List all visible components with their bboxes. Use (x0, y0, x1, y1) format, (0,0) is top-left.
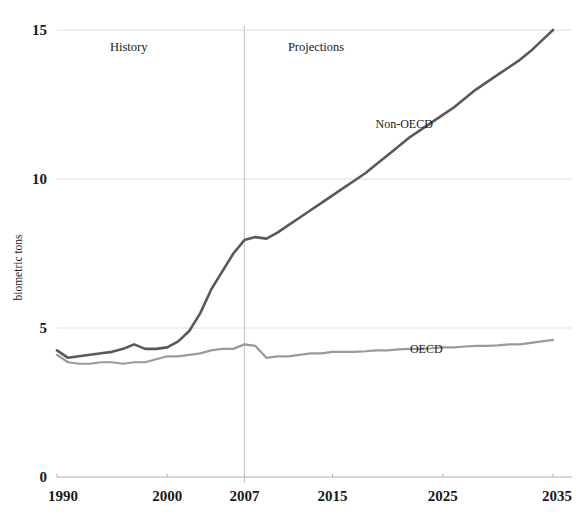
y-tick-label-5: 5 (40, 320, 48, 336)
series-line-non-oecd (57, 30, 553, 358)
series-label-oecd: OECD (410, 342, 443, 356)
y-axis-title: biometric tons (12, 234, 24, 301)
x-tick-label-2015: 2015 (318, 488, 348, 504)
x-tick-label-2007: 2007 (229, 488, 260, 504)
y-tick-label-0: 0 (40, 469, 48, 485)
chart-canvas: 051015biometric tons19902000200720152025… (0, 0, 576, 519)
series-line-oecd (57, 340, 553, 364)
period-label-projections: Projections (288, 40, 344, 54)
x-tick-label-2025: 2025 (428, 488, 458, 504)
period-label-history: History (110, 40, 148, 54)
x-tick-label-1990: 1990 (48, 488, 78, 504)
y-tick-label-15: 15 (32, 22, 47, 38)
x-tick-label-2000: 2000 (152, 488, 182, 504)
y-tick-label-10: 10 (32, 171, 47, 187)
x-tick-label-2035: 2035 (542, 488, 572, 504)
line-chart: 051015biometric tons19902000200720152025… (0, 0, 576, 519)
series-label-non-oecd: Non-OECD (376, 117, 434, 131)
